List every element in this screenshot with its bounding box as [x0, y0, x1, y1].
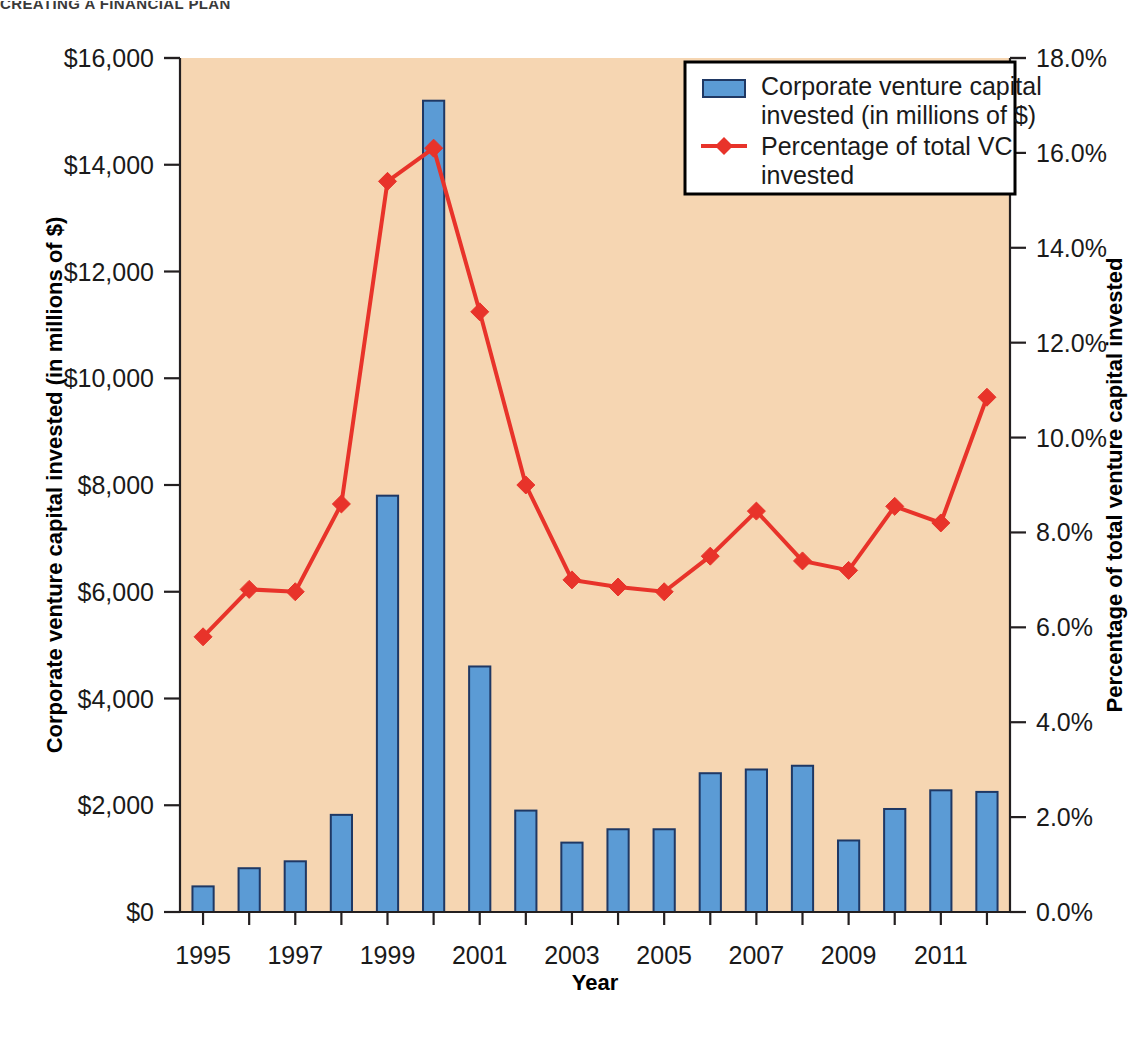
legend-label-line-line1: Percentage of total VC	[761, 132, 1013, 160]
x-tick-label-2007: 2007	[729, 941, 785, 969]
y-left-tick-label-6000: $6,000	[78, 578, 154, 606]
x-tick-label-2003: 2003	[544, 941, 600, 969]
y-right-tick-label-2: 2.0%	[1036, 803, 1093, 831]
y-right-tick-label-8: 8.0%	[1036, 518, 1093, 546]
x-tick-label-2001: 2001	[452, 941, 508, 969]
legend-label-bar-line1: Corporate venture capital	[761, 72, 1042, 100]
bar-2010	[884, 809, 905, 912]
y-right-tick-label-16: 16.0%	[1036, 139, 1107, 167]
bar-2003	[561, 843, 582, 912]
y-left-tick-label-12000: $12,000	[64, 258, 154, 286]
bar-2001	[469, 666, 490, 912]
chart-canvas: $0$2,000$4,000$6,000$8,000$10,000$12,000…	[0, 0, 1147, 1050]
bar-2006	[700, 773, 721, 912]
y-left-tick-label-16000: $16,000	[64, 44, 154, 72]
bar-1996	[239, 868, 260, 912]
y-left-tick-label-2000: $2,000	[78, 791, 154, 819]
y-left-tick-label-10000: $10,000	[64, 364, 154, 392]
y-left-tick-label-14000: $14,000	[64, 151, 154, 179]
x-axis-title: Year	[572, 970, 619, 995]
bar-2004	[607, 829, 628, 912]
x-tick-label-1995: 1995	[175, 941, 231, 969]
legend-label-line-line2: invested	[761, 161, 854, 189]
y-right-tick-label-0: 0.0%	[1036, 898, 1093, 926]
combo-chart: $0$2,000$4,000$6,000$8,000$10,000$12,000…	[0, 0, 1147, 1050]
bar-1997	[285, 861, 306, 912]
y-right-tick-label-4: 4.0%	[1036, 708, 1093, 736]
x-tick-label-1999: 1999	[360, 941, 416, 969]
y-right-tick-label-6: 6.0%	[1036, 613, 1093, 641]
x-tick-label-1997: 1997	[267, 941, 323, 969]
bar-1998	[331, 815, 352, 912]
bar-2011	[930, 790, 951, 912]
y-right-tick-label-10: 10.0%	[1036, 424, 1107, 452]
bar-2007	[746, 769, 767, 912]
y-right-tick-label-14: 14.0%	[1036, 234, 1107, 262]
x-tick-label-2005: 2005	[636, 941, 692, 969]
x-tick-label-2011: 2011	[914, 941, 968, 969]
bar-2008	[792, 766, 813, 912]
y-left-tick-label-0: $0	[126, 898, 154, 926]
y-right-tick-label-12: 12.0%	[1036, 329, 1107, 357]
bar-2000	[423, 101, 444, 912]
bar-2005	[654, 829, 675, 912]
x-tick-label-2009: 2009	[821, 941, 877, 969]
legend-swatch-bar	[703, 80, 745, 97]
bar-2009	[838, 840, 859, 912]
bar-1995	[192, 886, 213, 912]
bar-1999	[377, 496, 398, 912]
bar-2002	[515, 811, 536, 912]
legend-label-bar-line2: invested (in millions of $)	[761, 101, 1036, 129]
y-left-tick-label-8000: $8,000	[78, 471, 154, 499]
y-left-tick-label-4000: $4,000	[78, 685, 154, 713]
y-left-axis-title: Corporate venture capital invested (in m…	[42, 217, 67, 754]
y-right-tick-label-18: 18.0%	[1036, 44, 1107, 72]
bar-2012	[976, 792, 997, 912]
y-right-axis-title: Percentage of total venture capital inve…	[1102, 258, 1127, 713]
